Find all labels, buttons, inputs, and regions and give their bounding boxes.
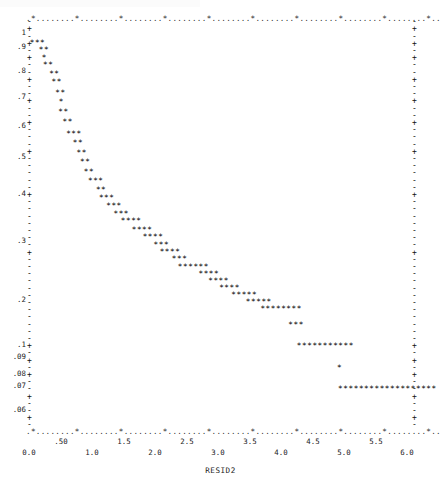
data-point-row: ** xyxy=(55,89,65,97)
data-point-row: ******************* xyxy=(338,385,437,393)
y-tick-label-0.6: .6 xyxy=(2,122,26,129)
data-point-row: *** xyxy=(88,177,104,185)
data-point-row: ******** xyxy=(260,305,302,313)
x-tick-label-0.0: 0.0 xyxy=(9,449,49,456)
x-tick-label-2.0: 2.0 xyxy=(135,449,175,456)
y-tick-label-0.06: .06 xyxy=(2,406,26,413)
data-point-row: **** xyxy=(121,217,142,225)
character-plot-canvas: .*........*........*........*........*..… xyxy=(0,0,441,486)
bottom-axis-rule: .*........*........*........*........*..… xyxy=(26,428,441,436)
data-point-row: *** xyxy=(288,321,304,329)
x-tick-label-1.0: 1.0 xyxy=(72,449,112,456)
x-tick-label-3.5: 3.5 xyxy=(230,438,270,445)
y-tick-label-0.07: .07 xyxy=(2,382,26,389)
data-point-row: *** xyxy=(66,130,82,138)
top-axis-rule: .*........*........*........*........*..… xyxy=(26,15,441,23)
data-point-row: ** xyxy=(62,118,72,126)
y-tick-label-0.5: .5 xyxy=(2,153,26,160)
y-tick-label-0.09: .09 xyxy=(2,353,26,360)
data-point-row: ** xyxy=(52,78,62,86)
data-point-row: ** xyxy=(76,149,86,157)
x-tick-label-5.0: 5.0 xyxy=(324,449,364,456)
x-tick-label-1.5: 1.5 xyxy=(104,438,144,445)
y-tick-label-0.3: .3 xyxy=(2,237,26,244)
x-tick-label-5.5: 5.5 xyxy=(356,438,396,445)
x-tick-label-4.0: 4.0 xyxy=(261,449,301,456)
y-tick-label-0.2: .2 xyxy=(2,296,26,303)
data-point-row: *********** xyxy=(297,342,354,350)
y-tick-label-0.1: .1 xyxy=(2,341,26,348)
x-tick-label-4.5: 4.5 xyxy=(293,438,333,445)
y-tick-label-0.7: .7 xyxy=(2,93,26,100)
data-point-row: ** xyxy=(58,108,68,116)
data-point-row: ** xyxy=(73,139,83,147)
y-tick-label-0.8: .8 xyxy=(2,67,26,74)
x-tick-label-3.0: 3.0 xyxy=(198,449,238,456)
data-point-row: ** xyxy=(80,158,90,166)
y-tick-label-0.4: .4 xyxy=(2,190,26,197)
data-point-row: ** xyxy=(43,61,53,69)
y-tick-label-0.9: .9 xyxy=(2,43,26,50)
x-tick-label-6.0: 6.0 xyxy=(387,449,427,456)
data-point-row: * xyxy=(337,364,342,372)
y-tick-label-1.0: 1 xyxy=(2,29,26,36)
x-tick-label-0.50: .50 xyxy=(41,438,81,445)
clipped-header-artifact xyxy=(0,0,200,7)
y-tick-label-0.08: .08 xyxy=(2,370,26,377)
x-axis-title: RESID2 xyxy=(0,467,441,475)
data-point-row: ** xyxy=(84,168,94,176)
data-point-row: * xyxy=(59,98,64,106)
x-tick-label-2.5: 2.5 xyxy=(167,438,207,445)
